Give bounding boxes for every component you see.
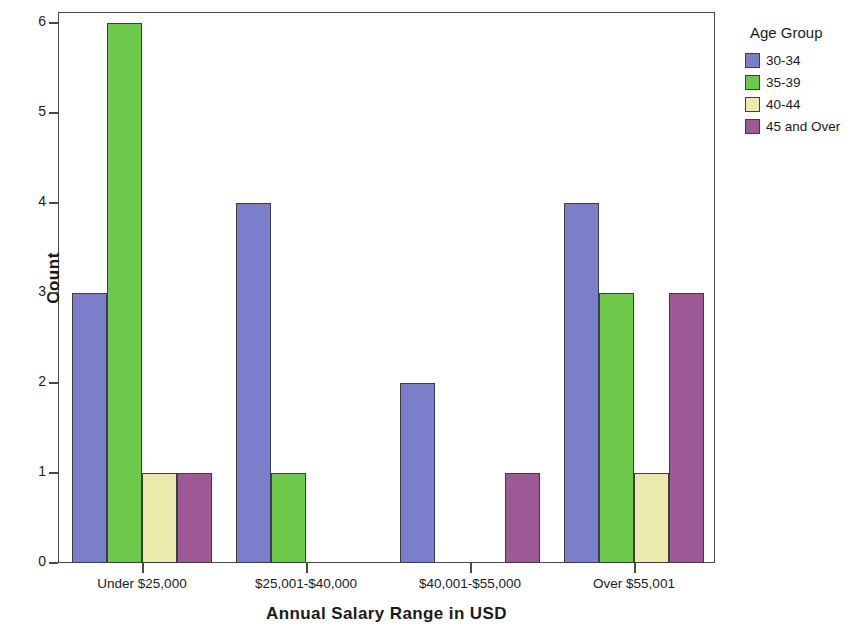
y-axis-tick-mark: [49, 22, 58, 24]
legend-item-label: 30-34: [766, 53, 801, 68]
x-axis-tick-label: Over $55,001: [524, 576, 744, 591]
bar: [271, 473, 306, 563]
bar: [505, 473, 540, 563]
bar: [72, 293, 107, 563]
y-axis-tick-label: 2: [38, 374, 46, 388]
y-axis-tick-label: 5: [38, 104, 46, 118]
bar: [107, 23, 142, 563]
bar: [236, 203, 271, 563]
x-axis-tick-mark: [306, 563, 308, 573]
y-axis-tick-mark: [49, 382, 58, 384]
bar: [599, 293, 634, 563]
y-axis-tick-mark: [49, 292, 58, 294]
legend-item-label: 40-44: [766, 97, 801, 112]
legend-swatch: [745, 75, 760, 90]
bar: [177, 473, 212, 563]
y-axis-tick: 3: [0, 286, 58, 300]
legend-item: 40-44: [745, 94, 863, 114]
legend-swatch: [745, 119, 760, 134]
x-axis-tick-mark: [470, 563, 472, 573]
bar: [142, 473, 177, 563]
legend-swatch: [745, 97, 760, 112]
y-axis-tick-label: 3: [38, 284, 46, 298]
y-axis-tick-mark: [49, 472, 58, 474]
legend-item: 45 and Over: [745, 116, 863, 136]
legend: Age Group 30-3435-3940-4445 and Over: [745, 24, 863, 138]
y-axis-tick: 0: [0, 556, 58, 570]
bar-chart: Count 0123456 Under $25,000$25,001-$40,0…: [0, 0, 863, 632]
legend-title: Age Group: [745, 24, 863, 41]
bar: [669, 293, 704, 563]
legend-swatch: [745, 53, 760, 68]
y-axis-tick: 2: [0, 376, 58, 390]
x-axis-title: Annual Salary Range in USD: [58, 604, 715, 624]
legend-entries: 30-3435-3940-4445 and Over: [745, 50, 863, 136]
bar: [400, 383, 435, 563]
y-axis-tick-mark: [49, 562, 58, 564]
y-axis-tick-label: 6: [38, 14, 46, 28]
bar: [634, 473, 669, 563]
y-axis-tick-label: 1: [38, 464, 46, 478]
legend-item: 35-39: [745, 72, 863, 92]
legend-item: 30-34: [745, 50, 863, 70]
y-axis-tick: 6: [0, 16, 58, 30]
y-axis-tick: 5: [0, 106, 58, 120]
legend-item-label: 45 and Over: [766, 119, 840, 134]
bars-layer: [58, 12, 715, 563]
y-axis-tick-mark: [49, 112, 58, 114]
y-axis-tick: 4: [0, 196, 58, 210]
bar: [564, 203, 599, 563]
x-axis-tick-mark: [142, 563, 144, 573]
x-axis-tick-mark: [634, 563, 636, 573]
y-axis-tick-mark: [49, 202, 58, 204]
y-axis-tick-label: 0: [38, 554, 46, 568]
legend-item-label: 35-39: [766, 75, 801, 90]
y-axis-tick-label: 4: [38, 194, 46, 208]
y-axis-tick: 1: [0, 466, 58, 480]
